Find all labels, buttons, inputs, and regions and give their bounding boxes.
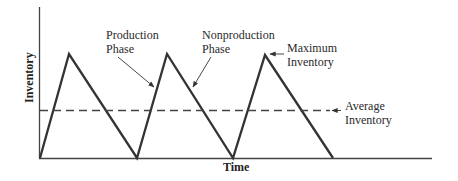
maximum-inventory-label-2: Inventory xyxy=(287,55,334,69)
average-inventory-label-2: Inventory xyxy=(345,113,392,127)
production-phase-label: Production xyxy=(106,28,159,42)
nonproduction-phase-label-2: Phase xyxy=(202,42,230,56)
production-phase-label-2: Phase xyxy=(106,42,134,56)
maximum-inventory-label: Maximum xyxy=(287,41,338,55)
inventory-diagram: Inventory Time Production Phase Nonprodu… xyxy=(0,0,458,181)
average-inventory-label: Average xyxy=(345,99,385,113)
inventory-line xyxy=(40,54,333,158)
x-axis-label: Time xyxy=(223,160,250,174)
y-axis-label: Inventory xyxy=(22,52,36,103)
nonproduction-phase-label: Nonproduction xyxy=(202,28,275,42)
nonproduction-arrow xyxy=(193,57,211,87)
production-arrow xyxy=(118,57,154,87)
